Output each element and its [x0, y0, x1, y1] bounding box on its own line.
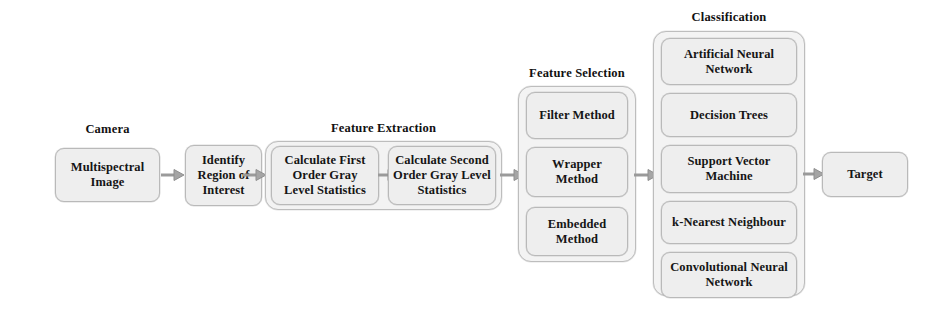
node-k-nearest-neighbour-label: k-Nearest Neighbour — [665, 215, 793, 230]
node-convolutional-neural-network-label: Convolutional NeuralNetwork — [665, 260, 793, 290]
node-embedded-method: EmbeddedMethod — [526, 207, 628, 256]
node-second-order-label: Calculate SecondOrder Gray LevelStatisti… — [392, 153, 492, 197]
node-wrapper-method-label: WrapperMethod — [530, 157, 624, 187]
caption-classification: Classification — [653, 10, 805, 25]
node-support-vector-machine-label: Support VectorMachine — [665, 154, 793, 184]
node-wrapper-method: WrapperMethod — [526, 147, 628, 197]
node-embedded-method-label: EmbeddedMethod — [530, 217, 624, 247]
node-artificial-neural-network-label: Artificial NeuralNetwork — [665, 47, 793, 77]
node-calculate-first-order-gray-level-statistics: Calculate FirstOrder GrayLevel Statistic… — [271, 146, 379, 205]
flowchart-canvas: Camera MultispectralImage IdentifyRegion… — [0, 0, 942, 333]
node-filter-method: Filter Method — [526, 92, 628, 139]
node-convolutional-neural-network: Convolutional NeuralNetwork — [661, 252, 797, 298]
node-first-order-label: Calculate FirstOrder GrayLevel Statistic… — [275, 153, 375, 197]
node-calculate-second-order-gray-level-statistics: Calculate SecondOrder Gray LevelStatisti… — [388, 146, 496, 205]
caption-feature-selection: Feature Selection — [518, 66, 636, 81]
node-artificial-neural-network: Artificial NeuralNetwork — [661, 38, 797, 85]
node-multispectral-image-label: MultispectralImage — [59, 160, 156, 190]
node-decision-trees-label: Decision Trees — [665, 108, 793, 123]
arrow-region-to-extraction — [243, 168, 267, 182]
node-target-label: Target — [826, 167, 904, 182]
node-support-vector-machine: Support VectorMachine — [661, 145, 797, 193]
node-filter-method-label: Filter Method — [530, 108, 624, 123]
caption-camera: Camera — [55, 122, 160, 137]
caption-feature-extraction: Feature Extraction — [265, 121, 502, 136]
node-multispectral-image: MultispectralImage — [55, 148, 160, 202]
arrow-image-to-region — [161, 168, 185, 182]
node-k-nearest-neighbour: k-Nearest Neighbour — [661, 201, 797, 244]
node-target: Target — [822, 152, 908, 197]
node-decision-trees: Decision Trees — [661, 93, 797, 137]
